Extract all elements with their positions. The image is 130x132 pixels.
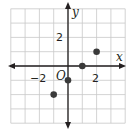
y-axis-label: y	[71, 5, 79, 19]
data-point	[79, 63, 86, 70]
data-point	[93, 48, 100, 55]
x-tick-label-2: 2	[92, 72, 99, 85]
x-tick-label-neg2: −2	[30, 72, 46, 85]
x-axis	[8, 63, 126, 69]
y-axis-bottom-arrow-icon	[65, 122, 71, 129]
origin-label: O	[56, 69, 66, 83]
x-axis-label: x	[116, 50, 123, 64]
x-axis-left-arrow-icon	[8, 63, 15, 69]
data-point	[50, 91, 57, 98]
y-axis-top-arrow-icon	[65, 2, 71, 9]
coordinate-plane: y x O 2 −2 2	[0, 0, 130, 132]
y-tick-label-2: 2	[56, 31, 63, 44]
